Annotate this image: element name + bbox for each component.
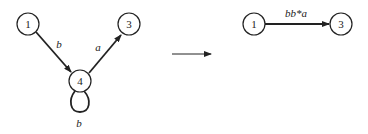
edge-label-4-4: b [76, 117, 82, 129]
left-graph: b a b 1 3 4 [17, 13, 140, 129]
edge-label-4-3: a [95, 41, 101, 53]
node-label: 3 [126, 18, 132, 30]
right-graph: bb*a 1 3 [243, 7, 352, 35]
node-label: 4 [77, 75, 83, 87]
edge-4-to-3 [89, 35, 121, 73]
node-3: 3 [330, 13, 352, 35]
diagram-svg: b a b 1 3 4 bb*a 1 3 [0, 0, 368, 134]
node-label: 1 [251, 18, 257, 30]
edge-label-1-3: bb*a [285, 7, 308, 19]
node-3: 3 [118, 13, 140, 35]
node-1: 1 [243, 13, 265, 35]
node-1: 1 [17, 13, 39, 35]
edge-label-1-4: b [56, 38, 62, 50]
edge-1-to-4 [36, 32, 71, 72]
state-elimination-diagram: b a b 1 3 4 bb*a 1 3 [0, 0, 368, 134]
node-4: 4 [69, 70, 91, 92]
self-loop-4 [71, 91, 89, 112]
node-label: 1 [25, 18, 31, 30]
node-label: 3 [338, 18, 344, 30]
